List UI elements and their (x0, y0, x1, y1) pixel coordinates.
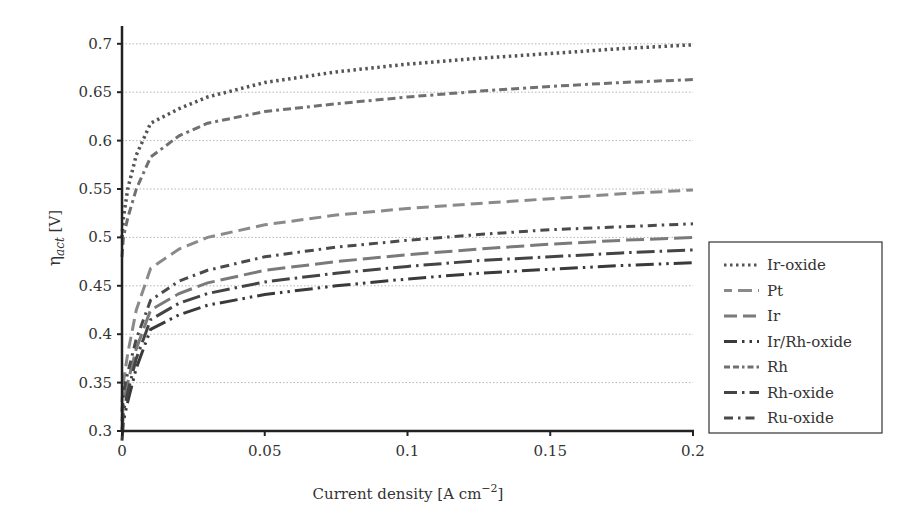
y-axis-ticks: 0.30.350.40.450.50.550.60.650.7 (79, 35, 122, 440)
y-tick-label: 0.5 (88, 228, 112, 246)
x-tick-label: 0.05 (248, 442, 281, 460)
plot-series (122, 45, 693, 441)
legend-label: Ru-oxide (767, 409, 834, 427)
legend-label: Pt (767, 282, 783, 300)
y-tick-label: 0.35 (79, 374, 112, 392)
legend-label: Ir-oxide (767, 256, 826, 274)
series-line-rh (122, 80, 693, 257)
y-tick-label: 0.45 (79, 277, 112, 295)
x-tick-label: 0 (117, 442, 127, 460)
x-tick-label: 0.15 (534, 442, 567, 460)
y-tick-label: 0.55 (79, 180, 112, 198)
series-line-rh-oxide (122, 250, 693, 431)
y-tick-label: 0.65 (79, 83, 112, 101)
y-axis-title: ηact [V] (44, 210, 67, 266)
legend-label: Ir/Rh-oxide (767, 333, 852, 351)
y-tick-label: 0.6 (88, 132, 112, 150)
y-tick-label: 0.4 (88, 325, 112, 343)
axes (121, 26, 694, 432)
legend-label: Ir (767, 307, 781, 325)
series-line-pt (122, 190, 693, 402)
legend-label: Rh (767, 358, 788, 376)
x-tick-label: 0.2 (681, 442, 705, 460)
polarization-chart: 0.30.350.40.450.50.550.60.650.7 00.050.1… (0, 0, 914, 529)
x-axis-ticks: 00.050.10.150.2 (117, 431, 705, 460)
y-tick-label: 0.7 (88, 35, 112, 53)
legend: Ir-oxidePtIrIr/Rh-oxideRhRh-oxideRu-oxid… (709, 242, 882, 433)
series-line-ru-oxide (122, 224, 693, 412)
gridlines (122, 44, 693, 383)
series-line-ir-rh-oxide (122, 263, 693, 441)
legend-label: Rh-oxide (767, 384, 834, 402)
x-tick-label: 0.1 (396, 442, 420, 460)
y-tick-label: 0.3 (88, 422, 112, 440)
x-axis-title: Current density [A cm−2] (313, 482, 504, 503)
